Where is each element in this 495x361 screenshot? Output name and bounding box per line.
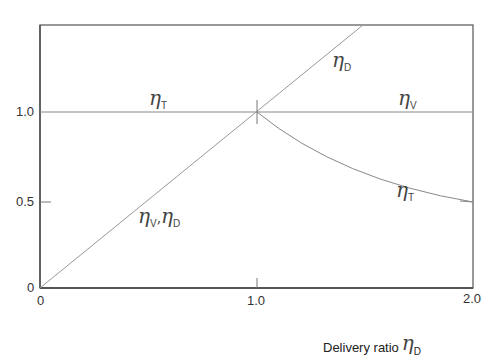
subscript: T: [161, 100, 167, 111]
y-tick-label-0: 0: [27, 280, 34, 295]
label-eta-v-right: ηV: [398, 88, 417, 111]
eta-glyph: η: [138, 204, 150, 228]
label-eta-t-lower: ηT: [396, 180, 414, 203]
subscript: D: [173, 218, 180, 229]
eta-t-curve: [257, 112, 473, 202]
subscript: T: [408, 192, 414, 203]
subscript: V: [150, 218, 157, 229]
x-tick-label-0: 0: [37, 293, 44, 308]
eta-glyph: η: [396, 178, 408, 202]
eta-glyph: η: [149, 86, 161, 110]
x-tick-label-2.0: 2.0: [463, 291, 481, 306]
eta-glyph: η: [398, 86, 410, 110]
subscript: D: [414, 346, 421, 357]
label-eta-v-eta-d: ηV,ηD: [138, 206, 180, 229]
label-eta-d-upper: ηD: [332, 50, 351, 73]
eta-glyph: η: [161, 204, 173, 228]
eta-glyph: η: [332, 48, 344, 72]
eta-d-diagonal-line: [40, 25, 363, 288]
subscript: D: [344, 62, 351, 73]
y-tick-label-1.0: 1.0: [16, 104, 34, 119]
x-axis-label-text: Delivery ratio: [323, 340, 399, 355]
eta-glyph: η: [402, 331, 414, 355]
x-axis-label: Delivery ratioηD: [323, 331, 421, 357]
eta-t-curve-end: [460, 201, 473, 202]
plot-frame: [40, 25, 473, 288]
y-tick-label-0.5: 0.5: [16, 194, 34, 209]
x-tick-label-1.0: 1.0: [247, 293, 265, 308]
subscript: V: [410, 100, 417, 111]
label-eta-t-left: ηT: [149, 88, 167, 111]
